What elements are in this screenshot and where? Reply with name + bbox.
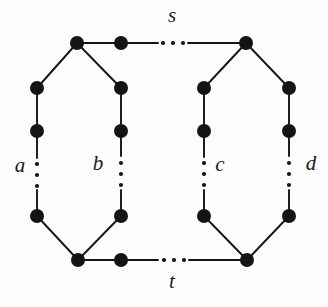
- edge-d3-to-t3: [247, 216, 289, 260]
- ellipsis-bottom-horizontal: [162, 258, 186, 262]
- ellipsis-dot: [287, 161, 291, 165]
- ellipsis-dot: [171, 41, 175, 45]
- edge-s3-to-c1: [204, 43, 246, 88]
- ellipsis-column-c: [202, 161, 206, 187]
- label-s: s: [168, 3, 176, 27]
- graph-figure: s t a b c d: [0, 0, 328, 307]
- edge-b3-to-t: [78, 216, 121, 260]
- ellipsis-dot: [182, 258, 186, 262]
- ellipsis-dot: [287, 183, 291, 187]
- node-t-bottom-right: [240, 253, 254, 267]
- ellipsis-dot: [287, 172, 291, 176]
- ellipsis-top-horizontal: [161, 41, 185, 45]
- ellipsis-dot: [35, 184, 39, 188]
- node-t-bottom-second: [114, 253, 128, 267]
- ellipsis-dot: [202, 172, 206, 176]
- edge-s-to-b1: [77, 43, 121, 88]
- edges-group: [37, 43, 289, 260]
- node-c-upper: [197, 81, 211, 95]
- node-c-lower: [197, 209, 211, 223]
- nodes-group: [30, 36, 296, 267]
- ellipses-group: [35, 41, 291, 262]
- ellipsis-dot: [35, 173, 39, 177]
- graph-canvas: s t a b c d: [0, 0, 328, 307]
- node-t-bottom-left: [71, 253, 85, 267]
- labels-group: s t a b c d: [15, 3, 317, 293]
- ellipsis-dot: [202, 161, 206, 165]
- edge-s3-to-d1: [246, 43, 289, 88]
- node-a-upper-mid: [30, 124, 44, 138]
- ellipsis-dot: [119, 183, 123, 187]
- ellipsis-dot: [119, 161, 123, 165]
- ellipsis-dot: [181, 41, 185, 45]
- node-s-top-right: [239, 36, 253, 50]
- ellipsis-column-b: [119, 161, 123, 187]
- node-d-upper: [282, 81, 296, 95]
- label-c: c: [215, 152, 225, 176]
- node-s-top-second: [114, 36, 128, 50]
- ellipsis-dot: [119, 172, 123, 176]
- ellipsis-dot: [202, 183, 206, 187]
- edge-a3-to-t: [37, 216, 78, 260]
- node-d-lower: [282, 209, 296, 223]
- ellipsis-dot: [162, 258, 166, 262]
- ellipsis-dot: [172, 258, 176, 262]
- node-b-upper: [114, 81, 128, 95]
- node-a-lower: [30, 209, 44, 223]
- ellipsis-column-a: [35, 162, 39, 188]
- ellipsis-column-d: [287, 161, 291, 187]
- node-d-upper-mid: [282, 124, 296, 138]
- node-b-upper-mid: [114, 124, 128, 138]
- node-b-lower: [114, 209, 128, 223]
- label-b: b: [93, 151, 104, 175]
- edge-s-to-a1: [37, 43, 77, 88]
- ellipsis-dot: [35, 162, 39, 166]
- ellipsis-dot: [161, 41, 165, 45]
- edge-c3-to-t3: [204, 216, 247, 260]
- node-c-upper-mid: [197, 124, 211, 138]
- node-s-top-left: [70, 36, 84, 50]
- node-a-upper: [30, 81, 44, 95]
- label-a: a: [15, 153, 26, 177]
- label-d: d: [306, 151, 317, 175]
- label-t: t: [169, 269, 176, 293]
